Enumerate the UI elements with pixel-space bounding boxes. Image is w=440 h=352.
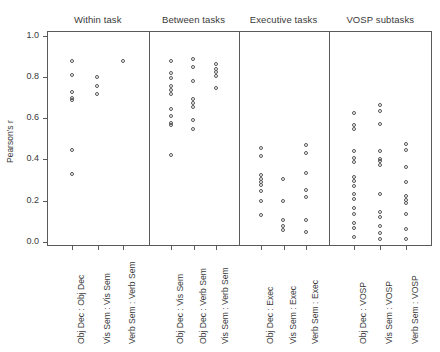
y-tick-label-0.0: 0.0 xyxy=(9,236,39,246)
data-point xyxy=(352,160,356,164)
y-tick-label-1.0: 1.0 xyxy=(9,30,39,40)
data-point xyxy=(378,149,382,153)
plot-frame xyxy=(47,31,432,246)
y-tick-mark-1 xyxy=(43,201,47,202)
data-point xyxy=(304,195,308,199)
y-tick-mark-5 xyxy=(43,36,47,37)
data-point xyxy=(169,84,173,88)
data-point xyxy=(404,201,408,205)
data-point xyxy=(352,226,356,230)
data-point xyxy=(259,146,263,150)
y-tick-label-0.8: 0.8 xyxy=(9,71,39,81)
x-tick-mark-1 xyxy=(72,246,73,250)
data-point xyxy=(95,84,99,88)
data-point xyxy=(259,199,263,203)
x-tick-mark-3 xyxy=(123,246,124,250)
data-point xyxy=(352,212,356,216)
y-tick-mark-0 xyxy=(43,242,47,243)
data-point xyxy=(214,86,218,90)
data-point xyxy=(70,148,74,152)
data-point xyxy=(352,127,356,131)
data-point xyxy=(404,180,408,184)
x-tick-mark-8 xyxy=(284,246,285,250)
data-point xyxy=(169,107,173,111)
data-point xyxy=(259,213,263,217)
x-tick-label-2: Vis Sem : Vis Sem xyxy=(102,273,112,344)
panel-divider-2 xyxy=(239,31,240,246)
data-point xyxy=(378,210,382,214)
data-point xyxy=(191,127,195,131)
x-tick-mark-10 xyxy=(354,246,355,250)
x-tick-label-4: Obj Dec : Vis Sem xyxy=(175,274,185,344)
data-point xyxy=(214,62,218,66)
data-point xyxy=(259,154,263,158)
data-point xyxy=(352,149,356,153)
data-point xyxy=(70,59,74,63)
x-tick-label-7: Obj Dec : Exec xyxy=(265,287,275,344)
data-point xyxy=(352,192,356,196)
data-point xyxy=(378,163,382,167)
data-point xyxy=(121,59,125,63)
data-point xyxy=(352,184,356,188)
data-point xyxy=(378,122,382,126)
x-tick-label-6: Vis Sem : Verb Sem xyxy=(220,267,230,344)
data-point xyxy=(70,98,74,102)
data-point xyxy=(281,218,285,222)
data-point xyxy=(169,92,173,96)
x-tick-mark-7 xyxy=(261,246,262,250)
y-axis-label: Pearson's r xyxy=(5,120,15,163)
x-tick-mark-9 xyxy=(306,246,307,250)
data-point xyxy=(304,188,308,192)
data-point xyxy=(259,183,263,187)
data-point xyxy=(169,123,173,127)
data-point xyxy=(169,71,173,75)
panel-divider-3 xyxy=(329,31,330,246)
x-tick-label-12: Verb Sem : VOSP xyxy=(410,275,420,344)
data-point xyxy=(304,218,308,222)
data-point xyxy=(169,153,173,157)
data-point xyxy=(191,57,195,61)
data-point xyxy=(352,221,356,225)
data-point xyxy=(281,177,285,181)
x-tick-mark-6 xyxy=(216,246,217,250)
y-tick-mark-4 xyxy=(43,77,47,78)
cropped-header-text xyxy=(0,0,440,9)
x-tick-label-11: Vis Sem : VOSP xyxy=(384,281,394,344)
data-point xyxy=(169,59,173,63)
x-tick-mark-12 xyxy=(406,246,407,250)
panel-title-4: VOSP subtasks xyxy=(320,14,440,25)
data-point xyxy=(352,179,356,183)
x-tick-label-5: Obj Dec : Verb Sem xyxy=(198,268,208,344)
figure-canvas: Within taskBetween tasksExecutive tasksV… xyxy=(0,0,440,352)
y-tick-label-0.2: 0.2 xyxy=(9,195,39,205)
data-point xyxy=(191,65,195,69)
data-point xyxy=(304,171,308,175)
data-point xyxy=(169,76,173,80)
x-tick-label-3: Verb Sem : Verb Sem xyxy=(127,261,137,344)
data-point xyxy=(378,224,382,228)
x-tick-label-1: Obj Dec : Obj Dec xyxy=(76,275,86,344)
y-tick-mark-3 xyxy=(43,118,47,119)
data-point xyxy=(378,103,382,107)
data-point xyxy=(304,151,308,155)
x-tick-label-9: Verb Sem : Exec xyxy=(310,280,320,344)
data-point xyxy=(378,231,382,235)
x-tick-label-8: Vis Sem : Exec xyxy=(288,286,298,344)
panel-divider-1 xyxy=(149,31,150,246)
x-tick-label-10: Obj Dec : VOSP xyxy=(358,282,368,344)
data-point xyxy=(404,165,408,169)
x-tick-mark-4 xyxy=(171,246,172,250)
y-tick-mark-2 xyxy=(43,159,47,160)
data-point xyxy=(259,189,263,193)
data-point xyxy=(378,215,382,219)
data-point xyxy=(304,230,308,234)
data-point xyxy=(378,192,382,196)
x-tick-mark-5 xyxy=(194,246,195,250)
data-point xyxy=(404,227,408,231)
data-point xyxy=(214,74,218,78)
data-point xyxy=(191,118,195,122)
x-tick-mark-11 xyxy=(380,246,381,250)
data-point xyxy=(404,148,408,152)
data-point xyxy=(404,212,408,216)
data-point xyxy=(169,114,173,118)
